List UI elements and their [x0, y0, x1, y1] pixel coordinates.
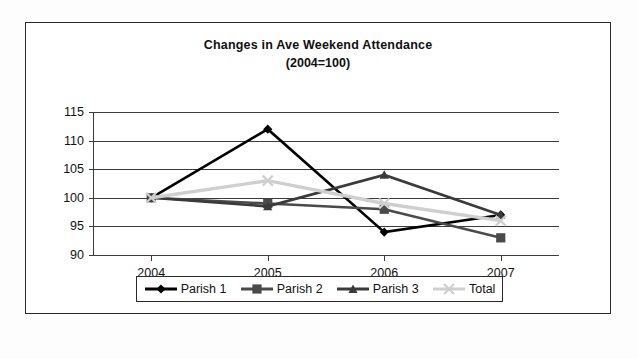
legend-item-parish-2[interactable]: Parish 2 [240, 282, 323, 296]
series-layer [93, 112, 559, 255]
chart-title: Changes in Ave Weekend Attendance [26, 35, 610, 55]
chart-subtitle: (2004=100) [26, 56, 610, 70]
x-tick-2006 [384, 255, 385, 261]
x-tick-2007 [501, 255, 502, 261]
y-axis-label-90: 90 [70, 248, 84, 262]
legend-label: Parish 1 [181, 282, 227, 296]
plot-area: 9095100105110115 2004200520062007 [93, 112, 559, 255]
legend-label: Parish 2 [277, 282, 323, 296]
x-tick-2005 [268, 255, 269, 261]
data-point-marker [496, 233, 505, 242]
chart-legend: Parish 1Parish 2Parish 3Total [136, 276, 503, 302]
y-axis-label-115: 115 [64, 105, 84, 119]
chart-frame: Changes in Ave Weekend Attendance (2004=… [25, 22, 611, 314]
diamond-marker-icon [144, 282, 178, 296]
square-marker-icon [240, 282, 274, 296]
y-axis-label-95: 95 [70, 219, 84, 233]
x-marker-icon [432, 282, 466, 296]
triangle-marker-icon [336, 282, 370, 296]
y-axis-label-100: 100 [63, 191, 84, 205]
legend-item-parish-1[interactable]: Parish 1 [144, 282, 227, 296]
series-line [151, 129, 501, 232]
legend-label: Total [469, 282, 495, 296]
x-tick-2004 [151, 255, 152, 261]
legend-label: Parish 3 [373, 282, 419, 296]
y-axis-label-110: 110 [64, 134, 84, 148]
series-line [151, 198, 501, 238]
legend-item-total[interactable]: Total [432, 282, 495, 296]
legend-item-parish-3[interactable]: Parish 3 [336, 282, 419, 296]
series-parish-3 [147, 170, 506, 219]
y-axis-label-105: 105 [63, 162, 84, 176]
series-parish-1 [147, 125, 506, 237]
